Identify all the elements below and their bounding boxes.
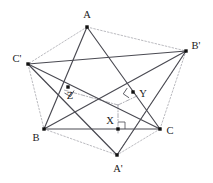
- vertex-dot-Ap: [115, 153, 118, 156]
- vertex-dot-Y: [131, 90, 134, 93]
- dotted-A-Cp: [28, 27, 87, 64]
- edge-A-B: [44, 27, 87, 129]
- edge-Ap-Cp: [28, 64, 117, 155]
- vertex-label-Y: Y: [139, 88, 147, 99]
- edge-Ap-Bp: [117, 51, 186, 155]
- vertex-dot-Bp: [184, 49, 187, 52]
- vertex-dot-group: [26, 25, 187, 156]
- vertex-dot-B: [42, 127, 45, 130]
- vertex-dot-X: [116, 127, 119, 130]
- geometry-figure: ABCA'B'C'XYZ: [0, 0, 213, 183]
- vertex-label-Bp: B': [192, 40, 201, 51]
- vertex-dot-A: [85, 25, 88, 28]
- dotted-edge-group: [28, 27, 186, 155]
- vertex-label-B: B: [32, 132, 39, 143]
- dotted-C-Ap: [117, 129, 160, 155]
- vertex-label-Z: Z: [67, 90, 73, 101]
- vertex-dot-Cp: [26, 62, 29, 65]
- vertex-dot-C: [158, 127, 161, 130]
- dotted-B-Ap: [44, 129, 117, 155]
- solid-edge-group: [28, 27, 186, 155]
- vertex-label-A: A: [83, 9, 91, 20]
- vertex-dot-Z: [66, 85, 69, 88]
- edge-Cp-Bp: [28, 51, 186, 64]
- ray-center-Y: [118, 96, 137, 105]
- vertex-label-X: X: [106, 115, 114, 126]
- vertex-label-Ap: A': [113, 163, 123, 174]
- dotted-Cp-B: [28, 64, 44, 129]
- geometry-canvas: ABCA'B'C'XYZ: [0, 0, 213, 183]
- vertex-label-C: C: [166, 125, 173, 136]
- vertex-label-Cp: C': [13, 53, 22, 64]
